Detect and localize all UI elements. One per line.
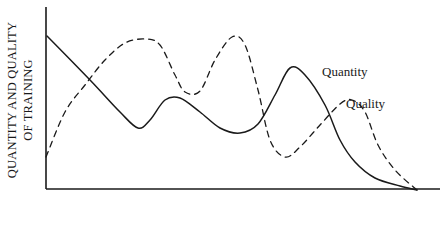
quantity-series-label: Quantity: [322, 64, 368, 80]
quality-line: [46, 36, 417, 190]
quality-series-label: Quality: [346, 96, 385, 112]
quantity-line: [47, 36, 417, 190]
